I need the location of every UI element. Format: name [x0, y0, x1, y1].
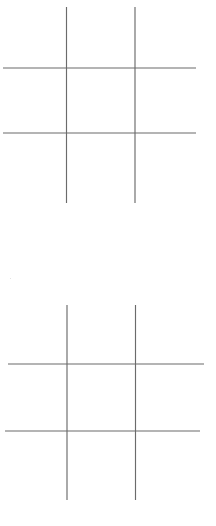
upper-board-cell-bottom-center[interactable]	[67, 133, 136, 203]
scan-speck	[10, 278, 11, 279]
upper-board-cell-middle-center[interactable]	[67, 68, 136, 133]
lower-board-cell-top-right[interactable]	[136, 305, 205, 364]
lower-board-cell-middle-left[interactable]	[8, 364, 67, 431]
upper-board-cell-top-left[interactable]	[3, 7, 67, 68]
lower-board-cell-bottom-left[interactable]	[8, 431, 67, 500]
upper-board-cell-top-right[interactable]	[135, 7, 196, 68]
lower-board-cell-top-left[interactable]	[8, 305, 67, 364]
upper-board-cell-middle-right[interactable]	[135, 68, 196, 133]
upper-board-cell-top-center[interactable]	[67, 7, 136, 68]
lower-board-cell-bottom-right[interactable]	[136, 431, 205, 500]
upper-board-cell-bottom-left[interactable]	[3, 133, 67, 203]
tic-tac-toe-canvas	[0, 0, 216, 526]
lower-board-cell-bottom-center[interactable]	[67, 431, 136, 500]
lower-board-cell-middle-center[interactable]	[67, 364, 136, 431]
lower-board-cell-middle-right[interactable]	[136, 364, 205, 431]
upper-board-cell-middle-left[interactable]	[3, 68, 67, 133]
lower-board-cell-top-center[interactable]	[67, 305, 136, 364]
upper-board-cell-bottom-right[interactable]	[135, 133, 196, 203]
